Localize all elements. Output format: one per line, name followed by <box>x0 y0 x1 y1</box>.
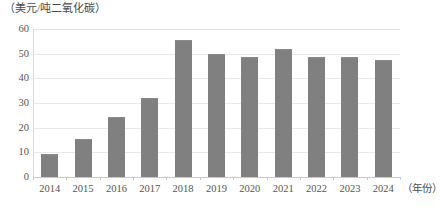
x-axis-tick-labels: 2014201520162017201820192020202120222023… <box>33 182 400 198</box>
bar-2017 <box>141 98 158 177</box>
bar-2022 <box>308 57 325 177</box>
x-axis-title: （年份） <box>402 182 440 196</box>
x-axis-ticks <box>33 177 400 181</box>
x-tick-label-2022: 2022 <box>300 182 333 198</box>
bar-series <box>33 29 400 177</box>
x-tick-mark <box>66 177 67 180</box>
bar-2019 <box>208 54 225 177</box>
y-tick-label-30: 30 <box>3 98 29 109</box>
x-tick-mark <box>200 177 201 180</box>
bar-2018 <box>175 40 192 177</box>
bar-slot <box>33 29 66 177</box>
bar-slot <box>267 29 300 177</box>
y-tick-label-20: 20 <box>3 123 29 134</box>
x-tick-mark <box>233 177 234 180</box>
x-tick-mark <box>400 177 401 180</box>
bar-2020 <box>241 57 258 177</box>
x-tick-label-2018: 2018 <box>166 182 199 198</box>
bar-2021 <box>275 49 292 177</box>
bar-slot <box>300 29 333 177</box>
bar-slot <box>333 29 366 177</box>
x-tick-label-2020: 2020 <box>233 182 266 198</box>
bar-slot <box>66 29 99 177</box>
bar-slot <box>166 29 199 177</box>
x-tick-label-2023: 2023 <box>333 182 366 198</box>
x-tick-mark <box>333 177 334 180</box>
x-tick-label-2019: 2019 <box>200 182 233 198</box>
bar-slot <box>233 29 266 177</box>
x-tick-mark <box>267 177 268 180</box>
x-tick-label-2016: 2016 <box>100 182 133 198</box>
y-tick-label-10: 10 <box>3 147 29 158</box>
x-tick-mark <box>133 177 134 180</box>
y-tick-label-0: 0 <box>3 172 29 183</box>
bar-2024 <box>375 60 392 177</box>
x-tick-mark <box>367 177 368 180</box>
bar-2023 <box>341 57 358 177</box>
x-tick-mark <box>33 177 34 180</box>
y-tick-label-50: 50 <box>3 49 29 60</box>
x-tick-label-2014: 2014 <box>33 182 66 198</box>
x-tick-mark <box>166 177 167 180</box>
bar-2015 <box>75 139 92 177</box>
x-tick-mark <box>300 177 301 180</box>
bar-slot <box>367 29 400 177</box>
x-tick-label-2017: 2017 <box>133 182 166 198</box>
bar-2014 <box>41 154 58 177</box>
x-tick-label-2021: 2021 <box>267 182 300 198</box>
x-tick-label-2015: 2015 <box>66 182 99 198</box>
bar-slot <box>200 29 233 177</box>
bar-slot <box>100 29 133 177</box>
bar-2016 <box>108 117 125 177</box>
y-axis-tick-labels: 0102030405060 <box>0 0 29 216</box>
x-tick-mark <box>100 177 101 180</box>
y-tick-label-60: 60 <box>3 24 29 35</box>
x-tick-label-2024: 2024 <box>367 182 400 198</box>
y-tick-label-40: 40 <box>3 73 29 84</box>
bar-slot <box>133 29 166 177</box>
